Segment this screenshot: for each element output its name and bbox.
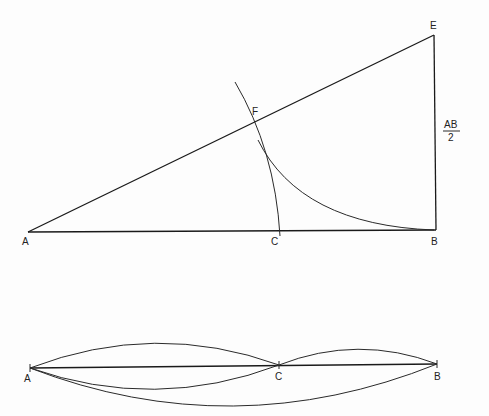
label-F: F	[252, 106, 258, 117]
arc-CB-upper	[279, 349, 437, 365]
golden-section-diagram: A B C E F AB 2 A C B	[0, 0, 489, 416]
label-AB-numerator: AB	[444, 119, 458, 130]
arc-AC-upper	[30, 343, 279, 368]
label-C-top: C	[271, 236, 278, 247]
label-B-bottom: B	[434, 371, 441, 382]
segment-AB-bottom	[30, 364, 437, 368]
segment-AE	[28, 35, 434, 232]
label-B-top: B	[431, 236, 438, 247]
arc-AB-lower	[30, 364, 437, 406]
label-AB-denominator: 2	[448, 132, 454, 143]
label-A-top: A	[22, 236, 29, 247]
segment-AB	[28, 230, 436, 232]
arc-AC-lower	[30, 365, 279, 389]
label-E: E	[430, 20, 437, 31]
arc-E-radius-EB	[258, 140, 434, 230]
label-A-bottom: A	[24, 373, 31, 384]
diagram-svg: A B C E F AB 2 A C B	[0, 0, 489, 416]
segment-BE	[434, 35, 436, 230]
label-C-bottom: C	[275, 371, 282, 382]
